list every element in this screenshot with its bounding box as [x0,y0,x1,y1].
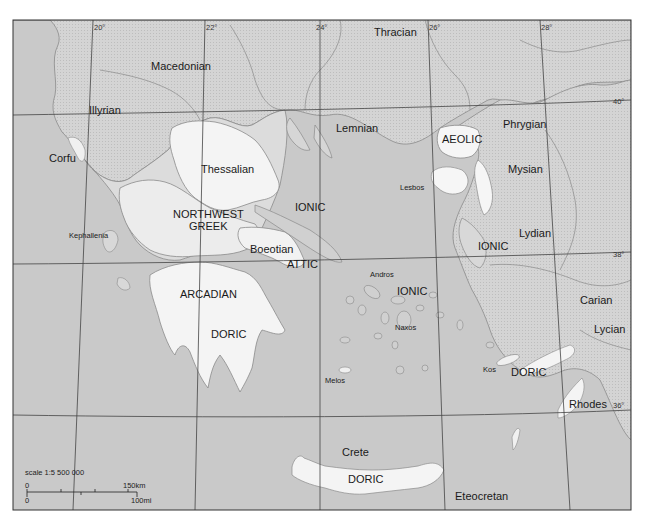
lat-label-36: 36° [613,401,624,410]
label-doric-dodecanese: DORIC [511,366,547,378]
label-doric-crete: DORIC [348,473,384,485]
lon-label-24: 24° [316,23,327,32]
lon-label-28: 28° [541,23,552,32]
scale-mi-zero: 0 [25,496,29,505]
label-doric-peloponnese: DORIC [211,328,247,340]
label-lemnian: Lemnian [336,122,378,134]
label-lesbos: Lesbos [400,183,424,192]
label-ionic-east: IONIC [478,240,509,252]
lon-label-22: 22° [206,23,217,32]
label-eteocretan: Eteocretan [455,490,508,502]
label-northwest: NORTHWEST [173,208,244,220]
label-phrygian: Phrygian [503,118,546,130]
label-lycian: Lycian [594,323,625,335]
label-naxos: Naxos [395,323,417,332]
label-ionic-cyclades: IONIC [397,285,428,297]
label-andros: Andros [370,270,394,279]
label-melos: Melos [325,376,345,385]
lat-label-38: 38° [613,250,624,259]
label-attic: ATTIC [287,258,318,270]
scale-title: scale 1:5 500 000 [25,468,84,477]
label-thessalian: Thessalian [201,163,254,175]
scale-km-end: 150km [123,481,146,490]
greek-dialects-map: 20° 22° 24° 26° 28° 40° 38° 36° Thracian… [0,0,649,527]
label-arcadian: ARCADIAN [180,288,237,300]
label-kephallenia: Kephallenia [69,231,109,240]
label-carian: Carian [580,294,612,306]
label-thracian: Thracian [374,26,417,38]
label-rhodes: Rhodes [569,398,607,410]
label-crete: Crete [342,446,369,458]
lon-label-26: 26° [429,23,440,32]
label-illyrian: Illyrian [89,104,121,116]
label-lydian: Lydian [519,227,551,239]
lat-label-40: 40° [613,97,624,106]
scale-km-zero: 0 [25,481,29,490]
label-boeotian: Boeotian [250,243,293,255]
label-mysian: Mysian [508,163,543,175]
label-macedonian: Macedonian [151,60,211,72]
label-ionic-north: IONIC [295,201,326,213]
label-corfu: Corfu [49,152,76,164]
lon-label-20: 20° [94,23,105,32]
label-kos: Kos [483,365,496,374]
label-greek: GREEK [189,220,228,232]
label-aeolic: AEOLIC [442,133,482,145]
scale-mi-end: 100mi [131,496,152,505]
island-melos [339,367,351,373]
